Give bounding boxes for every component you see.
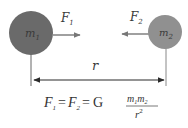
distance-label: r — [92, 58, 99, 73]
formula-numerator: m1m2 — [127, 93, 147, 105]
gravitation-formula: F1=F2=G m1m2 r2 — [43, 93, 158, 120]
force2-label: F2 — [129, 10, 143, 26]
gravitation-diagram: m1 m2 F1 F2 r F1=F2=G m1m2 r2 — [0, 0, 188, 128]
formula-denominator: r2 — [135, 107, 143, 120]
force1-label: F1 — [60, 11, 74, 27]
formula-lhs: F1=F2=G — [43, 95, 103, 112]
